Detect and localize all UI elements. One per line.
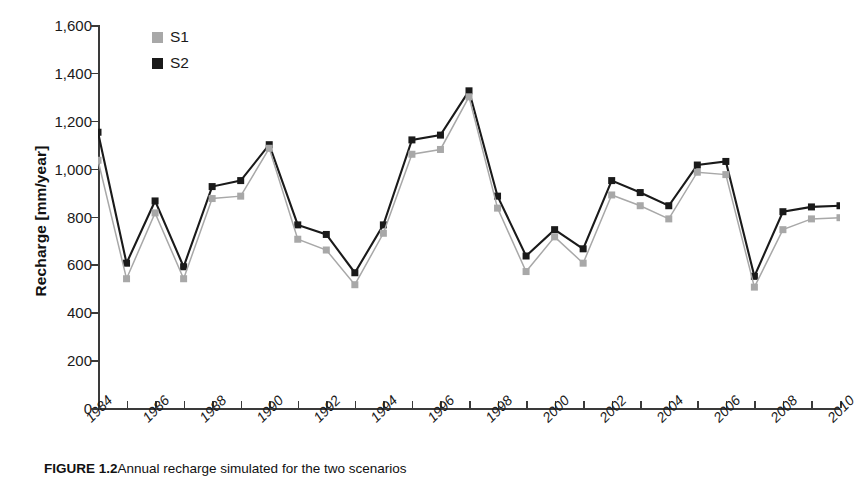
- data-point-marker: [608, 177, 615, 184]
- data-point-marker: [665, 215, 672, 222]
- caption-text: Annual recharge simulated for the two sc…: [118, 461, 407, 476]
- data-point-marker: [837, 214, 841, 221]
- x-tick-mark: [526, 401, 528, 408]
- x-tick-mark: [355, 401, 357, 408]
- x-tick-mark: [298, 401, 300, 408]
- y-tick-label: 400: [30, 304, 92, 321]
- data-point-marker: [380, 230, 387, 237]
- data-point-marker: [466, 93, 473, 100]
- data-point-marker: [351, 281, 358, 288]
- data-point-marker: [494, 205, 501, 212]
- data-point-marker: [323, 231, 330, 238]
- data-point-marker: [751, 284, 758, 291]
- data-point-marker: [637, 189, 644, 196]
- data-point-marker: [580, 260, 587, 267]
- data-point-marker: [523, 253, 530, 260]
- data-point-marker: [580, 245, 587, 252]
- chart-legend: S1 S2: [152, 24, 189, 76]
- data-point-marker: [779, 226, 786, 233]
- y-tick-label: 200: [30, 352, 92, 369]
- y-tick-mark: [91, 312, 98, 314]
- data-point-marker: [266, 145, 273, 152]
- y-tick-mark: [91, 264, 98, 266]
- data-point-marker: [237, 193, 244, 200]
- data-point-marker: [665, 202, 672, 209]
- x-tick-mark: [241, 401, 243, 408]
- series-svg: [98, 25, 840, 408]
- data-point-marker: [209, 195, 216, 202]
- legend-swatch-square-icon: [152, 32, 163, 43]
- x-tick-mark: [127, 401, 129, 408]
- data-point-marker: [209, 183, 216, 190]
- data-point-marker: [152, 209, 159, 216]
- data-point-marker: [152, 197, 159, 204]
- data-point-marker: [180, 275, 187, 282]
- legend-label-s1: S1: [170, 29, 189, 45]
- legend-item-s1[interactable]: S1: [152, 24, 189, 50]
- x-tick-mark: [469, 401, 471, 408]
- data-point-marker: [637, 202, 644, 209]
- data-point-marker: [123, 275, 130, 282]
- legend-swatch-square-icon: [152, 58, 163, 69]
- figure-root: Recharge [mm/year] 02004006008001,0001,2…: [0, 0, 865, 478]
- data-point-marker: [722, 158, 729, 165]
- y-tick-label: 1,400: [30, 64, 92, 81]
- y-tick-mark: [91, 169, 98, 171]
- data-point-marker: [808, 215, 815, 222]
- data-point-marker: [408, 151, 415, 158]
- data-point-marker: [551, 233, 558, 240]
- data-point-marker: [694, 162, 701, 169]
- legend-label-s2: S2: [170, 55, 189, 71]
- y-tick-mark: [91, 217, 98, 219]
- data-point-marker: [551, 226, 558, 233]
- x-tick-mark: [583, 401, 585, 408]
- x-tick-mark: [754, 401, 756, 408]
- plot-area: [98, 25, 840, 408]
- y-tick-label: 800: [30, 208, 92, 225]
- data-point-marker: [694, 169, 701, 176]
- y-tick-mark: [91, 408, 98, 410]
- data-point-marker: [523, 268, 530, 275]
- data-point-marker: [837, 202, 841, 209]
- y-tick-mark: [91, 73, 98, 75]
- y-tick-label: 1,200: [30, 112, 92, 129]
- y-axis-tick-labels: 02004006008001,0001,2001,4001,600: [28, 0, 92, 478]
- y-tick-mark: [91, 121, 98, 123]
- data-point-marker: [808, 203, 815, 210]
- data-point-marker: [323, 247, 330, 254]
- x-tick-mark: [811, 401, 813, 408]
- data-point-marker: [98, 129, 102, 136]
- y-tick-label: 600: [30, 256, 92, 273]
- x-tick-mark: [184, 401, 186, 408]
- y-tick-mark: [91, 360, 98, 362]
- data-point-marker: [351, 269, 358, 276]
- data-point-marker: [180, 263, 187, 270]
- y-tick-label: 1,600: [30, 17, 92, 34]
- x-tick-mark: [640, 401, 642, 408]
- data-point-marker: [237, 177, 244, 184]
- y-tick-label: 1,000: [30, 160, 92, 177]
- y-tick-mark: [91, 25, 98, 27]
- data-point-marker: [437, 132, 444, 139]
- data-point-marker: [98, 157, 102, 164]
- x-tick-mark: [697, 401, 699, 408]
- x-tick-mark: [412, 401, 414, 408]
- data-point-marker: [722, 171, 729, 178]
- data-point-marker: [294, 236, 301, 243]
- figure-caption: FIGURE 1.2Annual recharge simulated for …: [44, 461, 844, 478]
- data-point-marker: [408, 136, 415, 143]
- legend-item-s2[interactable]: S2: [152, 50, 189, 76]
- data-point-marker: [608, 191, 615, 198]
- caption-figure-number: FIGURE 1.2: [44, 461, 118, 476]
- data-point-marker: [466, 87, 473, 94]
- data-point-marker: [779, 208, 786, 215]
- data-point-marker: [437, 146, 444, 153]
- data-point-marker: [294, 221, 301, 228]
